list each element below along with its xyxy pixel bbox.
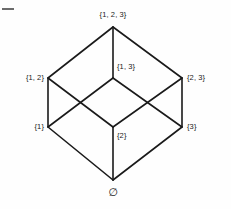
node-label-s23: {2, 3} [187, 74, 205, 82]
lattice-edge-s1-empty [48, 127, 113, 180]
lattice-graph [0, 0, 231, 209]
lattice-edge-full-s12 [48, 27, 113, 78]
node-label-empty: ∅ [108, 187, 118, 198]
node-label-s13: {1, 3} [117, 63, 135, 71]
node-label-full: {1, 2, 3} [100, 11, 127, 19]
node-label-s2: {2} [117, 132, 126, 140]
lattice-edges [48, 27, 182, 180]
node-label-s3: {3} [187, 123, 196, 131]
node-label-s12: {1, 2} [26, 74, 44, 82]
node-label-s1: {1} [35, 123, 44, 131]
hasse-diagram-figure: {1, 2, 3}{1, 2}{1, 3}{2, 3}{1}{2}{3}∅ [0, 0, 231, 209]
